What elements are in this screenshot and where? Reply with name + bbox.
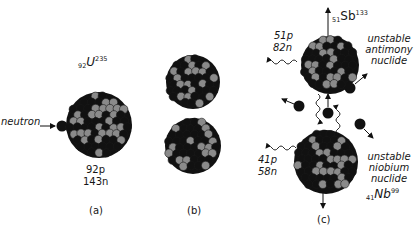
caption-c: (c) (317, 214, 330, 225)
deformed-nucleus-bottom-lobe (165, 118, 221, 174)
neutron-direction-arrow (282, 99, 294, 104)
gamma-ray-bottom-up (336, 105, 340, 135)
gamma-ray-bottom-left (266, 146, 296, 150)
gamma-ray-top-left (267, 60, 297, 64)
fission-diagram (0, 0, 416, 233)
mass-number: 235 (95, 55, 107, 63)
antimony-neutron-count: 82n (273, 42, 292, 53)
uranium-nucleus (65, 92, 132, 158)
deformed-nucleus-top-lobe (166, 55, 220, 109)
niobium-neutron-count: 58n (258, 166, 277, 177)
mass-number: 133 (356, 9, 368, 17)
caption-a: (a) (89, 205, 103, 216)
free-neutron (355, 119, 366, 130)
uranium-neutron-count: 143n (83, 176, 108, 187)
element-symbol: Sb (340, 9, 355, 23)
description-line: nuclide (362, 55, 416, 66)
description-line: antimony (362, 44, 416, 55)
niobium-isotope-label: 41Nb99 (366, 186, 399, 204)
caption-b: (b) (187, 205, 201, 216)
niobium-nucleus (294, 130, 358, 194)
element-symbol: U (86, 55, 95, 69)
description-line: niobium (362, 162, 416, 173)
mass-number: 99 (391, 187, 399, 195)
uranium-isotope-label: 92U235 (78, 54, 108, 72)
free-neutron (323, 108, 334, 119)
neutron-direction-arrow (364, 129, 373, 138)
free-neutron (294, 101, 305, 112)
antimony-isotope-label: 51Sb133 (332, 8, 368, 26)
antimony-proton-count: 51p (274, 30, 293, 41)
panel-a (40, 92, 132, 158)
niobium-description: unstable niobium nuclide (362, 151, 416, 184)
description-line: unstable (362, 151, 416, 162)
uranium-proton-count: 92p (86, 164, 105, 175)
gamma-ray-center-down (316, 94, 320, 124)
antimony-description: unstable antimony nuclide (362, 33, 416, 66)
antimony-nucleus (301, 36, 360, 94)
element-symbol: Nb (374, 187, 391, 201)
neutron-label: neutron (1, 116, 40, 127)
description-line: nuclide (362, 173, 416, 184)
niobium-proton-count: 41p (258, 154, 277, 165)
panel-b (165, 55, 221, 174)
description-line: unstable (362, 33, 416, 44)
